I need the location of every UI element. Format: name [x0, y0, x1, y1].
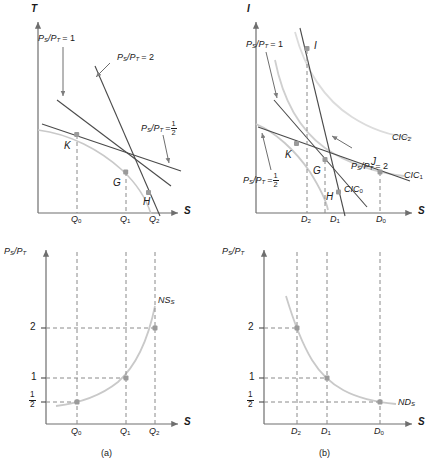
panel-b-lower-axes: [264, 250, 412, 424]
panel-a-xaxis-label: S: [184, 206, 191, 216]
slash-p: /P: [253, 175, 262, 185]
cic-index-0: 0: [360, 187, 363, 194]
q-index-0: 0: [78, 429, 81, 436]
panel-a-lower-axes: [46, 250, 178, 424]
q-symbol: Q: [149, 426, 156, 436]
panel-b-nd-curve-label: NDS: [398, 398, 415, 407]
q-symbol: Q: [71, 426, 78, 436]
panel-a-price-line-1: [57, 100, 171, 186]
panel-b-price-label-half: PS/PT=12: [243, 172, 279, 188]
cic-symbol: CIC: [344, 184, 360, 194]
panel-b-lower-xaxis-label: S: [418, 417, 425, 427]
slash-p: /P: [361, 161, 370, 171]
panel-a-ns-curve: [56, 306, 155, 406]
q-symbol: Q: [120, 214, 127, 224]
panel-b-lower-points: [295, 326, 383, 405]
panel-a-lower-ytick-half: 12: [29, 391, 36, 409]
d-index-1: 1: [328, 429, 331, 436]
slash-p: /P: [151, 123, 160, 133]
panel-b-lower-ytick-2: 2: [248, 322, 254, 332]
panel-a-lower-yaxis-label: PS/PT: [4, 247, 26, 256]
d-index-2: 2: [298, 429, 301, 436]
panel-b-yaxis-label: I: [247, 4, 250, 14]
fraction-one-half: 12: [171, 120, 177, 136]
panel-a-xtick-q2: Q2: [149, 215, 159, 224]
panel-b-xtick-d0: D0: [376, 215, 386, 224]
panel-a-point-label-g: G: [113, 178, 121, 188]
slash-p: /P: [127, 52, 136, 62]
p-subscript-t: T: [23, 249, 27, 256]
q-index-1: 1: [127, 429, 130, 436]
panel-b-cic0-label: CIC0: [344, 185, 363, 194]
fraction-denominator: 2: [171, 129, 177, 137]
panel-a-xtick-q0: Q0: [71, 215, 81, 224]
panel-a-tag: (a): [101, 449, 112, 458]
figure-root: T S PS/PT= 1 PS/PT= 2 PS/PT=12 K G H Q0 …: [0, 0, 436, 467]
panel-b-cic1-label: CIC1: [404, 171, 423, 180]
fraction-denominator: 2: [273, 181, 279, 189]
panel-b-lower-ytick-half: 12: [247, 391, 254, 409]
slash-p: /P: [48, 33, 57, 43]
panel-b-xtick-d1: D1: [330, 215, 340, 224]
slash-p: /P: [232, 246, 241, 256]
p-subscript-t: T: [262, 178, 266, 185]
panel-a-lower-dashed: [46, 252, 155, 424]
panel-b-lower-xtick-d2: D2: [291, 427, 301, 436]
panel-b-cic1-curve: [275, 60, 404, 176]
panel-b-point-label-j: J: [371, 157, 376, 167]
panel-a-transformation-curve: [38, 130, 151, 214]
panel-a-price-label-half: PS/PT=12: [141, 120, 177, 136]
q-index-1: 1: [127, 217, 130, 224]
equals-two: = 2: [141, 52, 154, 62]
p-subscript-t: T: [136, 55, 140, 62]
cic-index-1: 1: [420, 173, 423, 180]
p-subscript-t: T: [57, 36, 61, 43]
panel-b-point-label-k: K: [285, 150, 292, 160]
panel-a-lower-xtick-q2: Q2: [149, 427, 159, 436]
panel-b-cic2-curve: [295, 32, 412, 138]
panel-b-lower-yticks: [259, 328, 264, 402]
panel-a-yaxis-label: T: [31, 4, 37, 14]
d-index-1: 1: [337, 217, 340, 224]
slash-p: /P: [256, 39, 265, 49]
nd-subscript-s: S: [411, 400, 415, 407]
cic-index-2: 2: [408, 135, 411, 142]
fraction-one-half: 12: [247, 391, 254, 409]
panel-b-point-label-h: H: [326, 192, 333, 202]
panel-a-upper-axes: [38, 22, 178, 213]
equals-one: = 1: [62, 33, 75, 43]
panel-a-annotation-arrows: [63, 47, 169, 163]
equals-two: = 2: [375, 161, 388, 171]
panel-a-point-label-h: H: [143, 197, 150, 207]
panel-b-price-line-half: [258, 127, 410, 181]
panel-a-lower-xtick-q0: Q0: [71, 427, 81, 436]
panel-b-xaxis-label: S: [418, 206, 425, 216]
cic-symbol: CIC: [392, 132, 408, 142]
fraction-one-half: 12: [29, 391, 36, 409]
panel-b-tag: (b): [319, 449, 330, 458]
q-symbol: Q: [149, 214, 156, 224]
panel-a-lower-ytick-2: 2: [30, 322, 36, 332]
panel-a-lower-ytick-1: 1: [31, 372, 37, 382]
panel-a-point-label-k: K: [64, 141, 71, 151]
d-index-0: 0: [383, 217, 386, 224]
panel-b-annotation-arrows: [262, 52, 352, 170]
panel-b-xtick-d2: D2: [301, 215, 311, 224]
q-index-2: 2: [156, 429, 159, 436]
panel-b-lower-yaxis-label: PS/PT: [222, 247, 244, 256]
panel-a-ns-curve-label: NSS: [158, 296, 175, 305]
fraction-one-half: 12: [273, 172, 279, 188]
p-subscript-t: T: [265, 42, 269, 49]
panel-b-lower-xtick-d1: D1: [321, 427, 331, 436]
panel-a-price-label-1: PS/PT= 1: [38, 34, 75, 43]
panel-a-lower-yticks: [41, 328, 46, 402]
equals-one: = 1: [270, 39, 283, 49]
panel-b-lower-xtick-d0: D0: [374, 427, 384, 436]
ns-subscript-s: S: [171, 298, 175, 305]
panel-a-xtick-q1: Q1: [120, 215, 130, 224]
p-subscript-t: T: [241, 249, 245, 256]
ns-symbol: NS: [158, 295, 171, 305]
cic-symbol: CIC: [404, 170, 420, 180]
nd-symbol: ND: [398, 397, 411, 407]
fraction-denominator: 2: [247, 401, 254, 410]
